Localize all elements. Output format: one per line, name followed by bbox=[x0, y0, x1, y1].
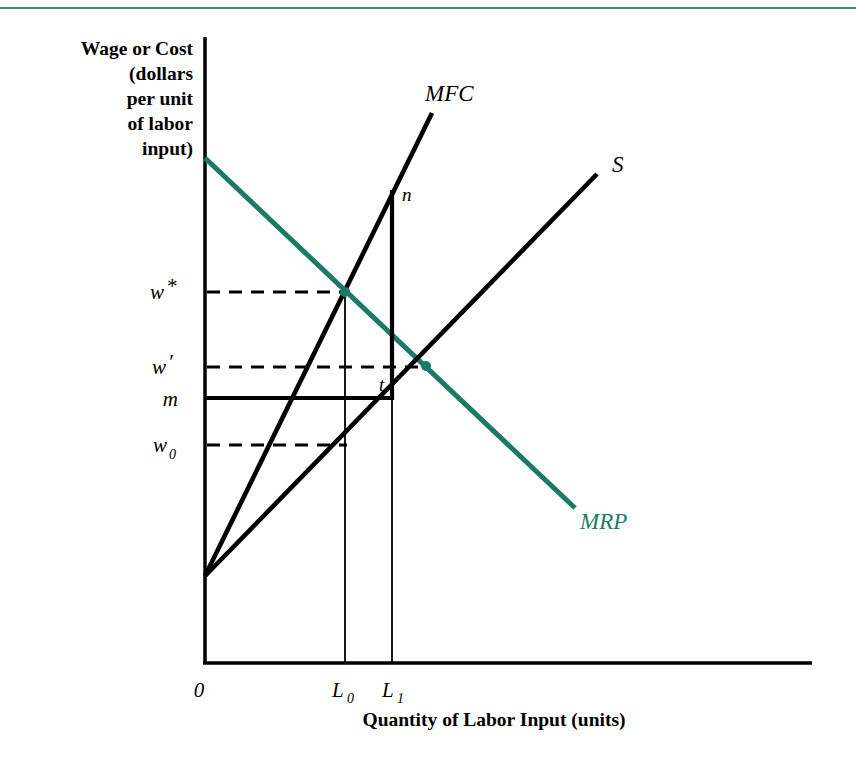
curve-mfc bbox=[205, 113, 432, 576]
y-axis-title-line-3: of labor bbox=[127, 113, 193, 134]
y-tick-w0-base: w bbox=[153, 433, 167, 457]
x-tick-L1-base: L bbox=[381, 678, 394, 702]
axis-group bbox=[203, 37, 812, 663]
x-tick-L0-sub: 0 bbox=[347, 691, 354, 706]
y-tick-label-wstar: w * bbox=[150, 274, 177, 304]
y-axis-title-line-2: per unit bbox=[127, 88, 194, 109]
y-tick-wprime-base: w bbox=[152, 355, 166, 379]
economics-monopsony-diagram: Wage or Cost (dollars per unit of labor … bbox=[0, 0, 856, 762]
x-tick-labels: L 0 L 1 bbox=[331, 678, 404, 706]
y-tick-wprime-sup: ′ bbox=[168, 350, 173, 374]
curve-label-s: S bbox=[612, 152, 624, 177]
y-tick-w0-sub: 0 bbox=[169, 447, 176, 462]
x-tick-L0-base: L bbox=[331, 678, 344, 702]
curve-label-mfc: MFC bbox=[424, 81, 474, 106]
marker-wprime-intersection bbox=[421, 361, 431, 371]
y-axis-title-line-1: (dollars bbox=[129, 63, 193, 85]
marker-wstar-intersection bbox=[340, 287, 350, 297]
point-label-n: n bbox=[402, 184, 412, 205]
y-axis-title-line-0: Wage or Cost bbox=[81, 38, 194, 59]
x-axis-title: Quantity of Labor Input (units) bbox=[363, 709, 626, 731]
x-tick-label-L0: L 0 bbox=[331, 678, 354, 706]
vertical-guide-lines bbox=[345, 292, 392, 663]
x-tick-L1-sub: 1 bbox=[397, 691, 404, 706]
dashed-guide-lines bbox=[207, 292, 428, 445]
y-tick-label-wprime: w ′ bbox=[152, 350, 173, 379]
point-label-t: t bbox=[379, 374, 385, 395]
y-tick-wstar-sup: * bbox=[166, 274, 177, 298]
y-tick-wstar-base: w bbox=[150, 280, 164, 304]
y-tick-m-base: m bbox=[163, 387, 178, 411]
curve-label-mrp: MRP bbox=[579, 509, 627, 534]
y-tick-label-m: m bbox=[163, 387, 178, 411]
y-axis-title: Wage or Cost (dollars per unit of labor … bbox=[81, 38, 194, 160]
origin-label: 0 bbox=[194, 678, 205, 702]
y-tick-label-w0: w 0 bbox=[153, 433, 176, 462]
y-tick-labels: w * w ′ m w 0 bbox=[150, 274, 178, 462]
curve-s bbox=[205, 174, 597, 576]
x-tick-label-L1: L 1 bbox=[381, 678, 404, 706]
figure-page: Wage or Cost (dollars per unit of labor … bbox=[0, 0, 856, 762]
y-axis-title-line-4: input) bbox=[142, 138, 193, 160]
